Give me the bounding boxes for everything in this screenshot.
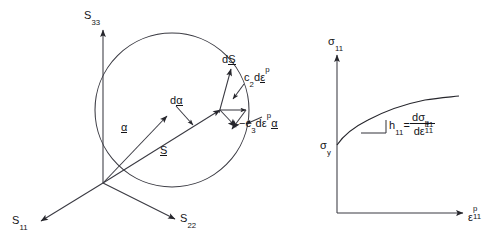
axis-label-s33: S33: [84, 10, 100, 21]
left-axes: [41, 30, 175, 221]
annotation-h11-formula: h11=dσ11dεp11: [389, 113, 435, 138]
h11-fraction: dσ11dεp11: [410, 112, 435, 137]
figure-root: S33 S11 S22 α dα S dS c2dεp −c3dεpα σ11 …: [0, 0, 497, 248]
axis-label-s11: S11: [12, 215, 28, 226]
vector-d-alpha: [176, 106, 193, 125]
vector-label-dS: dS: [222, 54, 236, 65]
annotation-c3-deps-alpha: −c3dεpα: [239, 118, 278, 129]
axis-label-epsilon11p: εp11: [468, 210, 480, 223]
annotation-c2-deps: c2dεp: [244, 72, 270, 83]
label-sigma-y: σy: [320, 140, 331, 151]
leader-c2-label: [233, 84, 244, 99]
vector-label-alpha: α: [121, 122, 127, 133]
vector-label-d-alpha: dα: [170, 95, 183, 106]
axis-label-s22: S22: [180, 213, 196, 224]
axis-s11-line: [41, 183, 103, 221]
axis-s22-line: [103, 183, 175, 219]
vector-dS: [219, 69, 231, 113]
h11-lhs: h11: [389, 120, 404, 131]
vector-label-s: S: [160, 145, 167, 156]
axis-label-sigma11: σ11: [328, 36, 343, 47]
vector-total-d-alpha-resultant: [220, 110, 236, 127]
